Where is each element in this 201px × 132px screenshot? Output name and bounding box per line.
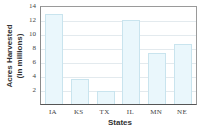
bar-ne: [174, 44, 192, 104]
x-tick-label: TX: [92, 108, 118, 116]
x-tick-label: KS: [66, 108, 92, 116]
gridline: [41, 63, 196, 64]
bar-tx: [97, 91, 115, 104]
y-tick-label: 4: [22, 73, 36, 80]
gridline: [41, 21, 196, 22]
x-tick-label: IA: [40, 108, 66, 116]
y-tick-label: 8: [22, 45, 36, 52]
y-tick-label: 6: [22, 59, 36, 66]
x-tick-label: MN: [143, 108, 169, 116]
bar-ks: [71, 79, 89, 104]
x-tick-label: IL: [117, 108, 143, 116]
y-tick-label: 2: [22, 87, 36, 94]
gridline: [41, 91, 196, 92]
gridline: [41, 77, 196, 78]
y-tick-label: 14: [22, 3, 36, 10]
gridline: [41, 49, 196, 50]
y-tick-label: 10: [22, 31, 36, 38]
bar-ia: [45, 14, 63, 104]
bar-mn: [148, 53, 166, 104]
bar-il: [122, 20, 140, 104]
y-tick-label: 12: [22, 17, 36, 24]
y-axis-label-line-2: (in millions): [15, 33, 24, 78]
y-axis-label-line-1: Acres Harvested: [5, 24, 14, 87]
gridline: [41, 35, 196, 36]
x-tick-label: NE: [169, 108, 195, 116]
x-axis-label: States: [100, 118, 140, 127]
plot-area: [40, 6, 197, 105]
